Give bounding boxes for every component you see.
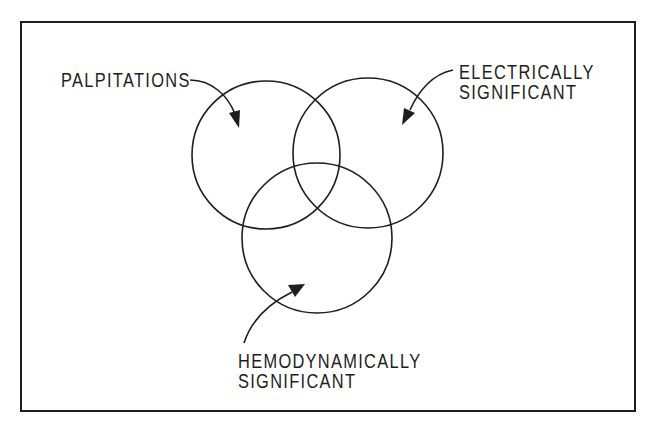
- arrow-hemodynamic-icon: [244, 284, 305, 343]
- label-palpitations: PALPITATIONS: [61, 70, 191, 90]
- arrow-palpitations-icon: [190, 80, 240, 128]
- label-electrical-line2: SIGNIFICANT: [459, 82, 595, 102]
- label-hemodynamic-line2: SIGNIFICANT: [238, 371, 421, 391]
- label-hemodynamic-line1: HEMODYNAMICALLY: [238, 351, 421, 371]
- label-electrical-line1: ELECTRICALLY: [459, 62, 595, 82]
- label-electrically-significant: ELECTRICALLY SIGNIFICANT: [459, 62, 595, 102]
- arrow-electrical-icon: [402, 70, 453, 125]
- circle-palpitations: [192, 81, 340, 229]
- label-palpitations-line1: PALPITATIONS: [61, 70, 191, 90]
- circle-electrically-significant: [293, 78, 443, 228]
- circle-hemodynamically-significant: [242, 163, 392, 313]
- label-hemodynamically-significant: HEMODYNAMICALLY SIGNIFICANT: [238, 351, 421, 391]
